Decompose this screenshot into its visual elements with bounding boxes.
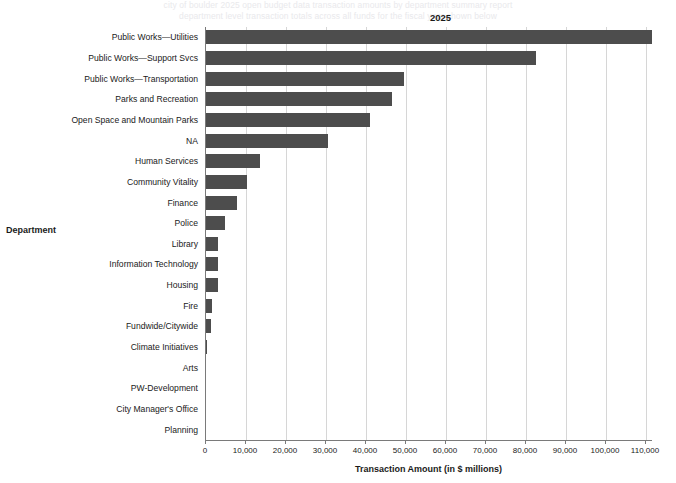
bar[interactable]: [206, 216, 225, 230]
x-tick-label: 80,000: [513, 446, 537, 455]
category-label: Public Works—Utilities: [112, 32, 198, 42]
bar[interactable]: [206, 30, 652, 44]
x-axis-line: [205, 440, 652, 441]
bar[interactable]: [206, 113, 370, 127]
x-tick-label: 10,000: [233, 446, 257, 455]
x-tick-label: 0: [203, 446, 207, 455]
bar-row[interactable]: Arts: [0, 357, 676, 378]
x-tick-mark: [445, 440, 446, 444]
bar[interactable]: [206, 299, 212, 313]
x-tick-mark: [565, 440, 566, 444]
bar-row[interactable]: NA: [0, 130, 676, 151]
bar[interactable]: [206, 257, 218, 271]
category-label: Fire: [183, 301, 198, 311]
x-tick-mark: [205, 440, 206, 444]
category-label: Arts: [183, 363, 198, 373]
category-label: Police: [175, 218, 198, 228]
bar-row[interactable]: Open Space and Mountain Parks: [0, 110, 676, 131]
x-tick-mark: [605, 440, 606, 444]
bar[interactable]: [206, 278, 218, 292]
bar-row[interactable]: PW-Development: [0, 378, 676, 399]
bar-row[interactable]: City Manager's Office: [0, 399, 676, 420]
x-tick-label: 70,000: [473, 446, 497, 455]
category-label: Housing: [166, 280, 198, 290]
x-tick-label: 100,000: [591, 446, 620, 455]
bar-row[interactable]: Finance: [0, 192, 676, 213]
category-label: Climate Initiatives: [131, 342, 198, 352]
x-tick-mark: [245, 440, 246, 444]
category-label: Community Vitality: [127, 177, 198, 187]
x-tick-label: 60,000: [433, 446, 457, 455]
category-label: Library: [172, 239, 198, 249]
bar[interactable]: [206, 237, 218, 251]
x-tick-mark: [525, 440, 526, 444]
category-label: Parks and Recreation: [115, 94, 198, 104]
bar-row[interactable]: Parks and Recreation: [0, 89, 676, 110]
y-axis-title: Department: [6, 225, 56, 235]
bar-row[interactable]: Housing: [0, 275, 676, 296]
x-tick-label: 30,000: [313, 446, 337, 455]
bar[interactable]: [206, 134, 328, 148]
category-label: Fundwide/Citywide: [126, 321, 198, 331]
bar-row[interactable]: Public Works—Support Svcs: [0, 48, 676, 69]
bar-row[interactable]: Public Works—Transportation: [0, 68, 676, 89]
x-tick-mark: [365, 440, 366, 444]
category-label: Human Services: [135, 156, 198, 166]
category-label: Finance: [167, 198, 198, 208]
x-tick-label: 110,000: [631, 446, 659, 455]
category-label: NA: [186, 136, 198, 146]
bar[interactable]: [206, 51, 536, 65]
bar[interactable]: [206, 92, 392, 106]
category-label: Public Works—Transportation: [84, 74, 198, 84]
bar-row[interactable]: Community Vitality: [0, 172, 676, 193]
bar-chart: 2025 010,00020,00030,00040,00050,00060,0…: [0, 0, 676, 483]
category-label: PW-Development: [131, 383, 198, 393]
x-tick-mark: [485, 440, 486, 444]
x-tick-label: 40,000: [353, 446, 377, 455]
x-axis-title: Transaction Amount (in $ millions): [205, 464, 652, 474]
x-tick-mark: [645, 440, 646, 444]
x-tick-mark: [325, 440, 326, 444]
x-tick-mark: [285, 440, 286, 444]
bar-row[interactable]: Human Services: [0, 151, 676, 172]
x-tick-label: 20,000: [273, 446, 297, 455]
bar-row[interactable]: Police: [0, 213, 676, 234]
bar[interactable]: [206, 154, 260, 168]
category-label: Information Technology: [109, 259, 198, 269]
bar[interactable]: [206, 175, 247, 189]
bar-row[interactable]: Library: [0, 234, 676, 255]
x-tick-label: 50,000: [393, 446, 417, 455]
bar[interactable]: [206, 72, 404, 86]
bar-row[interactable]: Fire: [0, 295, 676, 316]
bar[interactable]: [206, 196, 237, 210]
bar[interactable]: [206, 340, 207, 354]
bar-row[interactable]: Fundwide/Citywide: [0, 316, 676, 337]
bar[interactable]: [206, 319, 211, 333]
category-label: Public Works—Support Svcs: [88, 53, 198, 63]
category-label: Open Space and Mountain Parks: [71, 115, 198, 125]
bar-row[interactable]: Public Works—Utilities: [0, 27, 676, 48]
bar-row[interactable]: Information Technology: [0, 254, 676, 275]
column-header-year: 2025: [205, 12, 676, 23]
x-tick-mark: [405, 440, 406, 444]
x-tick-label: 90,000: [553, 446, 577, 455]
category-label: City Manager's Office: [116, 404, 198, 414]
bar-row[interactable]: Climate Initiatives: [0, 337, 676, 358]
bar-row[interactable]: Planning: [0, 419, 676, 440]
category-label: Planning: [165, 425, 198, 435]
